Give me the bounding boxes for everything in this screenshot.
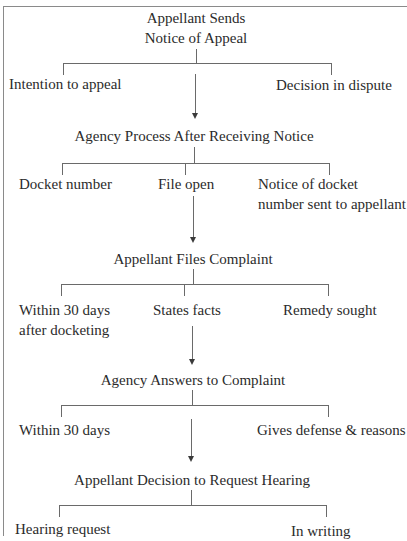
stage-3-stem	[193, 269, 194, 284]
stage-5-bracket	[59, 505, 327, 506]
stage-3-drop-right	[328, 284, 329, 296]
stage-3-title: Appellant Files Complaint	[113, 249, 272, 269]
arrow-down-icon	[190, 237, 196, 243]
arrow-3-shaft	[192, 326, 193, 360]
stage-4-drop-right	[328, 405, 329, 417]
stage-2-stem	[194, 147, 195, 163]
stage-4-stem	[192, 390, 193, 405]
arrow-down-icon	[188, 456, 194, 462]
arrow-down-icon	[192, 113, 198, 119]
frame-left-border	[3, 6, 4, 536]
arrow-down-icon	[189, 359, 195, 365]
stage-3-drop-middle	[184, 284, 185, 296]
stage-5-drop-right	[326, 505, 327, 517]
stage-2-title: Agency Process After Receiving Notice	[74, 126, 313, 146]
branch-docket-number: Docket number	[19, 174, 112, 194]
stage-5-drop-left	[59, 505, 60, 517]
branch-within-30-days-line-1: Within 30 days	[19, 300, 110, 320]
stage-1-title-line-1: Appellant Sends	[147, 8, 246, 28]
arrow-4-shaft	[191, 419, 192, 457]
arrow-1-shaft	[195, 74, 196, 114]
stage-1-bracket	[63, 63, 332, 64]
stage-5-title: Appellant Decision to Request Hearing	[74, 470, 310, 490]
branch-gives-defense-reasons: Gives defense & reasons	[257, 420, 406, 440]
branch-within-30-days: Within 30 days	[19, 420, 110, 440]
stage-3-bracket	[61, 284, 329, 285]
stage-2-bracket	[62, 163, 330, 164]
branch-intention-to-appeal: Intention to appeal	[9, 74, 121, 94]
branch-hearing-request: Hearing request	[15, 519, 110, 539]
branch-notice-line-1: Notice of docket	[258, 174, 358, 194]
stage-4-bracket	[61, 405, 329, 406]
stage-3-drop-left	[61, 284, 62, 296]
branch-notice-line-2: number sent to appellant	[258, 194, 406, 214]
stage-4-drop-left	[61, 405, 62, 417]
branch-remedy-sought: Remedy sought	[283, 300, 377, 320]
branch-decision-in-dispute: Decision in dispute	[276, 75, 392, 95]
branch-file-open: File open	[158, 174, 214, 194]
stage-1-title-line-2: Notice of Appeal	[145, 28, 247, 48]
stage-1-drop-right	[331, 63, 332, 75]
arrow-2-shaft	[193, 196, 194, 238]
branch-in-writing: In writing	[291, 521, 351, 541]
branch-states-facts: States facts	[153, 300, 221, 320]
stage-5-stem	[191, 490, 192, 505]
stage-1-stem	[196, 49, 197, 63]
stage-4-title: Agency Answers to Complaint	[101, 370, 286, 390]
frame-top-border	[3, 6, 407, 7]
branch-within-30-days-line-2: after docketing	[19, 320, 109, 340]
